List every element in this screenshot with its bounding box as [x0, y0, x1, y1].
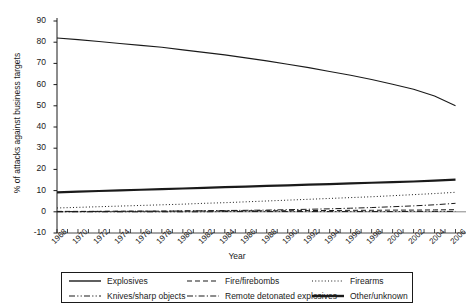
legend-label: Firearms [350, 276, 384, 286]
legend-line-swatch [68, 291, 102, 301]
legend-item[interactable]: Firearms [311, 273, 384, 288]
legend-line-swatch [186, 276, 220, 286]
legend-label: Knives/sharp objects [107, 291, 185, 301]
legend-label: Fire/firebombs [225, 276, 279, 286]
legend-item[interactable]: Fire/firebombs [186, 273, 279, 288]
legend-line-swatch [68, 276, 102, 286]
legend-line-swatch [186, 291, 220, 301]
chart-figure: % of attacks against business targets Ye… [0, 0, 474, 307]
legend-line-swatch [311, 291, 345, 301]
plot-area [0, 0, 474, 307]
legend-item[interactable]: Other/unknown [311, 288, 408, 303]
legend-label: Explosives [107, 276, 148, 286]
legend-label: Other/unknown [350, 291, 408, 301]
series-line-explosives [57, 38, 456, 106]
legend-line-swatch [311, 276, 345, 286]
legend-item[interactable]: Knives/sharp objects [68, 288, 185, 303]
series-line-other-unknown [57, 180, 456, 193]
legend-item[interactable]: Explosives [68, 273, 148, 288]
series-line-firearms [57, 192, 456, 208]
chart-legend: ExplosivesFire/firebombsFirearmsKnives/s… [61, 272, 413, 303]
